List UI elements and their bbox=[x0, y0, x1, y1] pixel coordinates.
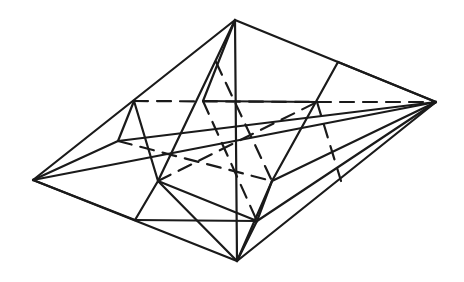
polyhedron-svg bbox=[0, 0, 464, 282]
visible-edge-A3-J bbox=[135, 220, 257, 221]
visible-edge-A3-C1 bbox=[135, 181, 158, 220]
visible-edge-A2-R bbox=[118, 102, 436, 141]
visible-edge-D-G bbox=[203, 101, 317, 102]
visible-edge-T-B bbox=[235, 20, 237, 261]
hidden-edge-E-H bbox=[216, 62, 272, 181]
visible-edge-A1-C1 bbox=[134, 101, 158, 181]
visible-edge-H-R bbox=[272, 102, 436, 181]
hidden-edge-A2-H bbox=[118, 141, 272, 181]
visible-edge-F-R bbox=[338, 62, 436, 102]
visible-edge-L-A3 bbox=[33, 180, 135, 220]
polyhedron-diagram bbox=[0, 0, 464, 282]
